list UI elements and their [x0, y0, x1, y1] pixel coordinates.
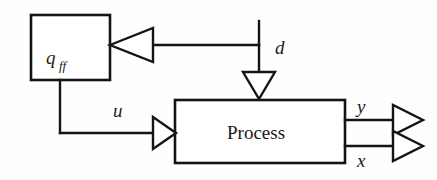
control-signal-label: u: [113, 100, 123, 121]
feedforward-block[interactable]: [31, 15, 110, 80]
arrowhead-right-icon-y: [393, 105, 423, 135]
arrowhead-right-icon-x: [393, 131, 423, 161]
output-y-label: y: [355, 96, 366, 117]
disturbance-label: d: [275, 37, 285, 58]
diagram-svg: q ff Process d u y x: [0, 0, 437, 180]
arrowhead-right-icon-u: [153, 117, 176, 149]
arrowhead-down-icon: [243, 72, 275, 99]
block-diagram-canvas: q ff Process d u y x: [0, 0, 437, 180]
output-x-label: x: [356, 150, 366, 171]
arrowhead-left-icon: [110, 28, 153, 62]
process-block-label: Process: [227, 122, 285, 143]
feedforward-block-label: q: [46, 47, 56, 68]
